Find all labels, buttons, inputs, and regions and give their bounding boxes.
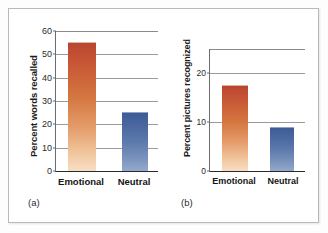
gridline-b-20: 20	[210, 73, 305, 74]
plot-area-b: 20 10 0	[209, 49, 305, 172]
y-tick-label-a-50: 50	[42, 49, 52, 59]
category-label-a-neutral: Neutral	[118, 176, 151, 187]
y-axis-title-a: Percent words recalled	[28, 55, 39, 157]
figure-frame: Percent words recalled 60 50 40 30	[8, 8, 319, 223]
gridline-b-top	[210, 49, 305, 50]
bar-b-emotional	[222, 85, 248, 171]
y-tick-label-a-0: 0	[47, 166, 52, 176]
gridline-60: 60	[56, 31, 158, 32]
y-axis-title-b: Percent pictures recognized	[182, 39, 192, 157]
gridline-b-0: 0	[210, 171, 305, 172]
y-tick-label-a-30: 30	[42, 96, 52, 106]
bar-a-emotional	[68, 42, 96, 171]
figure-container: Percent words recalled 60 50 40 30	[0, 0, 328, 233]
category-label-b-emotional: Emotional	[212, 176, 256, 186]
chart-panel-b: Percent pictures recognized 20 10 0	[169, 9, 320, 224]
bar-b-neutral	[270, 127, 294, 171]
panel-letter-b: (b)	[181, 197, 193, 208]
gridline-0: 0	[56, 171, 158, 172]
chart-panel-a: Percent words recalled 60 50 40 30	[9, 9, 169, 224]
y-tick-label-a-10: 10	[42, 143, 52, 153]
y-tick-label-b-10: 10	[197, 117, 206, 127]
category-label-a-emotional: Emotional	[58, 176, 104, 187]
y-tick-label-b-0: 0	[201, 166, 206, 176]
y-tick-label-a-40: 40	[42, 73, 52, 83]
category-label-b-neutral: Neutral	[267, 176, 298, 186]
bar-a-neutral	[122, 112, 148, 171]
y-tick-label-a-60: 60	[42, 26, 52, 36]
y-tick-label-b-20: 20	[197, 68, 206, 78]
plot-area-a: 60 50 40 30 20	[55, 31, 158, 172]
panel-letter-a: (a)	[28, 197, 40, 208]
y-tick-label-a-20: 20	[42, 119, 52, 129]
